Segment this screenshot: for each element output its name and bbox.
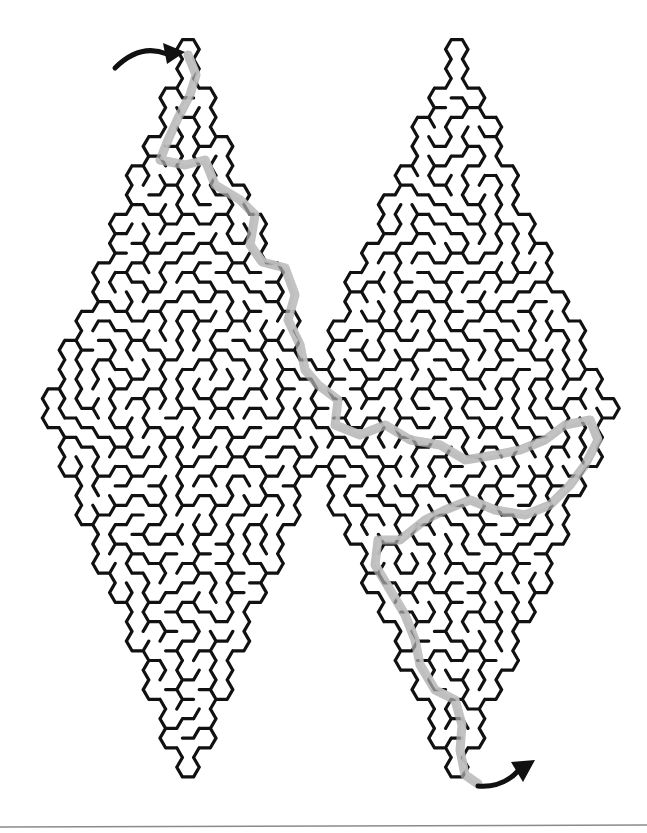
end-arrow-icon	[478, 770, 519, 786]
start-arrow-icon	[115, 51, 167, 68]
maze-wall-segments	[42, 40, 619, 777]
maze-image: Double Diamond Hexagonal Maze	[0, 0, 647, 833]
maze-walls	[42, 40, 619, 777]
maze-canvas	[0, 0, 647, 833]
bottom-rule-divider	[0, 825, 647, 827]
